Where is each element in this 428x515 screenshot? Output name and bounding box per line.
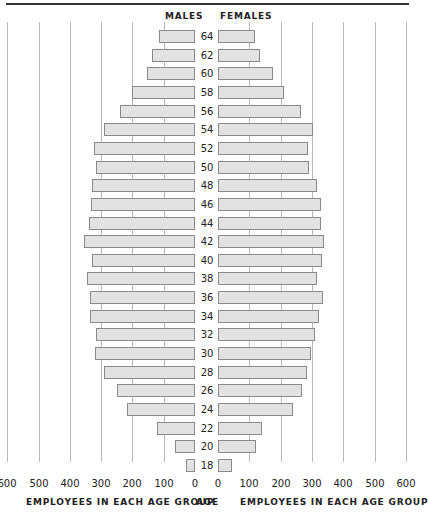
age-label-36: 36 — [195, 291, 219, 304]
female-bar-age-36 — [218, 291, 323, 304]
age-label-60: 60 — [195, 67, 219, 80]
male-bar-age-40 — [92, 254, 195, 267]
gridline-left-600 — [7, 22, 8, 462]
female-bar-age-62 — [218, 49, 260, 62]
male-bar-age-50 — [96, 161, 195, 174]
gridline-right-600 — [406, 22, 407, 462]
male-bar-age-62 — [152, 49, 195, 62]
male-bar-age-32 — [96, 328, 195, 341]
male-bar-age-38 — [87, 272, 195, 285]
female-bar-age-54 — [218, 123, 313, 136]
female-bar-age-32 — [218, 328, 315, 341]
left-tick-500: 500 — [29, 478, 48, 489]
male-bar-age-54 — [104, 123, 195, 136]
left-tick-200: 200 — [122, 478, 141, 489]
male-bar-age-36 — [90, 291, 195, 304]
female-bar-age-42 — [218, 235, 324, 248]
age-label-34: 34 — [195, 310, 219, 323]
age-label-44: 44 — [195, 217, 219, 230]
age-label-40: 40 — [195, 254, 219, 267]
age-label-56: 56 — [195, 105, 219, 118]
female-bar-age-20 — [218, 440, 256, 453]
male-bar-age-56 — [120, 105, 195, 118]
male-bar-age-22 — [157, 422, 195, 435]
age-label-62: 62 — [195, 49, 219, 62]
right-tick-400: 400 — [333, 478, 352, 489]
male-bar-age-42 — [84, 235, 195, 248]
age-label-58: 58 — [195, 86, 219, 99]
female-bar-age-22 — [218, 422, 262, 435]
female-bar-age-48 — [218, 179, 317, 192]
male-bar-age-52 — [94, 142, 195, 155]
age-label-32: 32 — [195, 328, 219, 341]
gridline-right-400 — [343, 22, 344, 462]
right-axis-title: EMPLOYEES IN EACH AGE GROUP — [240, 497, 428, 507]
males-header: MALES — [165, 11, 203, 21]
female-bar-age-24 — [218, 403, 293, 416]
left-tick-0: 0 — [192, 478, 198, 489]
right-tick-100: 100 — [239, 478, 258, 489]
female-bar-age-40 — [218, 254, 322, 267]
age-axis-title: AGE — [196, 497, 219, 507]
male-bar-age-18 — [186, 459, 195, 472]
right-tick-500: 500 — [365, 478, 384, 489]
female-bar-age-60 — [218, 67, 273, 80]
right-tick-300: 300 — [302, 478, 321, 489]
female-bar-age-28 — [218, 366, 307, 379]
gridline-left-500 — [39, 22, 40, 462]
age-label-48: 48 — [195, 179, 219, 192]
male-bar-age-44 — [89, 217, 195, 230]
male-bar-age-30 — [95, 347, 195, 360]
female-bar-age-56 — [218, 105, 301, 118]
age-label-42: 42 — [195, 235, 219, 248]
male-bar-age-20 — [175, 440, 195, 453]
male-bar-age-58 — [132, 86, 195, 99]
gridline-left-400 — [70, 22, 71, 462]
age-label-30: 30 — [195, 347, 219, 360]
right-tick-0: 0 — [215, 478, 221, 489]
female-bar-age-38 — [218, 272, 317, 285]
right-tick-600: 600 — [396, 478, 415, 489]
left-tick-600: 600 — [0, 478, 17, 489]
female-bar-age-34 — [218, 310, 319, 323]
age-label-26: 26 — [195, 384, 219, 397]
male-bar-age-24 — [127, 403, 195, 416]
female-bar-age-64 — [218, 30, 255, 43]
age-label-64: 64 — [195, 30, 219, 43]
females-header: FEMALES — [220, 11, 272, 21]
age-label-20: 20 — [195, 440, 219, 453]
age-label-50: 50 — [195, 161, 219, 174]
top-rule — [6, 3, 409, 5]
female-bar-age-18 — [218, 459, 232, 472]
age-label-28: 28 — [195, 366, 219, 379]
left-tick-400: 400 — [60, 478, 79, 489]
age-label-52: 52 — [195, 142, 219, 155]
female-bar-age-26 — [218, 384, 302, 397]
age-label-24: 24 — [195, 403, 219, 416]
age-label-18: 18 — [195, 459, 219, 472]
female-bar-age-46 — [218, 198, 321, 211]
female-bar-age-52 — [218, 142, 308, 155]
male-bar-age-28 — [104, 366, 195, 379]
age-label-46: 46 — [195, 198, 219, 211]
male-bar-age-34 — [90, 310, 195, 323]
age-label-38: 38 — [195, 272, 219, 285]
female-bar-age-58 — [218, 86, 284, 99]
male-bar-age-46 — [91, 198, 195, 211]
right-tick-200: 200 — [271, 478, 290, 489]
female-bar-age-50 — [218, 161, 309, 174]
male-bar-age-64 — [159, 30, 195, 43]
left-tick-100: 100 — [154, 478, 173, 489]
age-label-54: 54 — [195, 123, 219, 136]
male-bar-age-60 — [147, 67, 195, 80]
female-bar-age-30 — [218, 347, 311, 360]
age-label-22: 22 — [195, 422, 219, 435]
left-tick-300: 300 — [91, 478, 110, 489]
female-bar-age-44 — [218, 217, 321, 230]
male-bar-age-26 — [117, 384, 195, 397]
left-axis-title: EMPLOYEES IN EACH AGE GROUP — [26, 497, 214, 507]
gridline-right-500 — [375, 22, 376, 462]
male-bar-age-48 — [92, 179, 195, 192]
